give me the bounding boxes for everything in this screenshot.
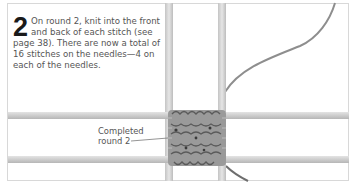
step-description: On round 2, knit into the front and back… [13, 16, 160, 70]
step-instruction: 2 On round 2, knit into the front and ba… [13, 16, 173, 71]
knitted-square [168, 110, 226, 166]
callout-label: Completed round 2 [98, 126, 144, 146]
callout-line1: Completed [98, 126, 144, 136]
yarn-strand [225, 3, 335, 92]
callout-line2: round 2 [98, 136, 144, 146]
yarn-end [226, 166, 248, 181]
step-number: 2 [13, 17, 28, 37]
